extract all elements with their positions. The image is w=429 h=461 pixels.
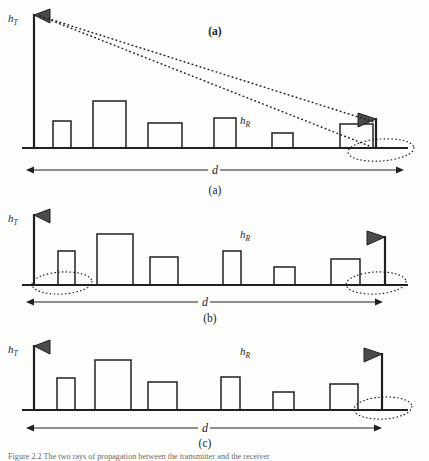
panel-c-distance-arrowhead-right	[374, 424, 382, 431]
panel-a-tx-antenna-icon	[34, 9, 50, 23]
panel-c-distance-label: d	[202, 421, 209, 435]
panel-c-building-6	[330, 384, 358, 410]
panel-b-zone-ellipse-2	[345, 270, 406, 295]
panel-a-inset-tag: (a)	[208, 25, 222, 38]
panel-b-tx-antenna-icon	[34, 209, 50, 223]
panel-c-tx-height-label: hT	[8, 343, 19, 358]
panel-a-distance-arrowhead-right	[396, 166, 404, 173]
figure-root: dhThR(a)(a)dhThR(b)dhThR(c)	[0, 0, 429, 461]
panel-b-building-1	[58, 251, 75, 285]
panel-b-distance-arrowhead-right	[375, 298, 383, 305]
panel-c-rx-height-label: hR	[240, 345, 251, 360]
panel-c-building-3	[148, 382, 177, 410]
panel-a-building-5	[272, 133, 293, 148]
panel-b-distance-arrowhead-left	[26, 298, 34, 305]
panel-c-tx-antenna-icon	[34, 340, 50, 354]
panel-b-building-6	[331, 259, 360, 285]
panel-a-distance-arrowhead-left	[26, 166, 34, 173]
panel-c-label: (c)	[199, 437, 212, 450]
panel-a-building-4	[214, 118, 236, 148]
panel-b-zone-ellipse-1	[31, 270, 92, 295]
panel-c-building-2	[95, 360, 131, 410]
panel-b-building-3	[150, 257, 178, 285]
panel-c-building-4	[221, 377, 240, 410]
panel-c-building-5	[273, 392, 294, 410]
panel-a-building-1	[53, 121, 71, 148]
panel-a-label: (a)	[209, 184, 222, 197]
panel-c-building-1	[57, 378, 75, 410]
panel-b-tx-height-label: hT	[8, 212, 19, 227]
panel-b-rx-height-label: hR	[240, 228, 251, 243]
panel-b-building-2	[97, 234, 133, 285]
panel-b-rx-antenna-icon	[367, 231, 385, 245]
panel-c-rx-antenna-icon	[364, 348, 382, 362]
figure-caption: Figure 2.2 The two rays of propagation b…	[8, 452, 421, 461]
panel-a-distance-label: d	[212, 163, 219, 177]
panel-a-building-3	[148, 123, 182, 148]
panel-b-distance-label: d	[202, 295, 209, 309]
panel-a-building-2	[93, 101, 126, 148]
panel-a-tx-height-label: hT	[8, 12, 19, 27]
panel-b-building-5	[274, 267, 295, 285]
panel-c-distance-arrowhead-left	[26, 424, 34, 431]
propagation-diagram: dhThR(a)(a)dhThR(b)dhThR(c)	[0, 0, 429, 461]
panel-a-rx-height-label: hR	[240, 114, 251, 129]
panel-b-label: (b)	[203, 312, 217, 325]
panel-a-propagation-ray-1	[40, 16, 374, 122]
panel-a-propagation-ray-2	[40, 16, 372, 147]
panel-b-building-4	[223, 251, 241, 285]
